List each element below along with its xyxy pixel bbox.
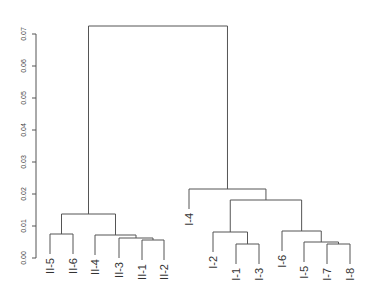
- y-axis: 0.000.010.020.030.040.050.060.07: [20, 27, 36, 265]
- leaf-label: II-4: [89, 259, 101, 275]
- leaf-label: I-7: [321, 268, 333, 281]
- leaf-label: I-6: [276, 255, 288, 268]
- leaf-label: I-5: [298, 266, 310, 279]
- leaf-labels: II-5II-6II-4II-3II-1II-2I-4I-2I-1I-3I-6I…: [44, 213, 356, 281]
- leaf-label: II-1: [136, 264, 148, 280]
- y-tick-label: 0.01: [20, 219, 27, 233]
- y-tick-label: 0.02: [20, 187, 27, 201]
- y-tick-label: 0.07: [20, 27, 27, 41]
- leaf-label: II-2: [158, 264, 170, 280]
- y-tick-label: 0.03: [20, 155, 27, 169]
- y-tick-label: 0.04: [20, 123, 27, 137]
- leaf-label: II-3: [113, 262, 125, 278]
- leaf-label: I-1: [230, 268, 242, 281]
- leaf-label: I-8: [344, 268, 356, 281]
- dendrogram-chart: 0.000.010.020.030.040.050.060.07 II-5II-…: [0, 0, 372, 303]
- y-tick-label: 0.05: [20, 91, 27, 105]
- leaf-label: I-3: [253, 268, 265, 281]
- y-tick-label: 0.00: [20, 251, 27, 265]
- leaf-label: II-6: [67, 258, 79, 274]
- leaf-label: I-4: [183, 213, 195, 226]
- leaf-label: I-2: [207, 256, 219, 269]
- y-tick-label: 0.06: [20, 59, 27, 73]
- dendrogram-branches: [50, 26, 350, 264]
- leaf-label: II-5: [44, 258, 56, 274]
